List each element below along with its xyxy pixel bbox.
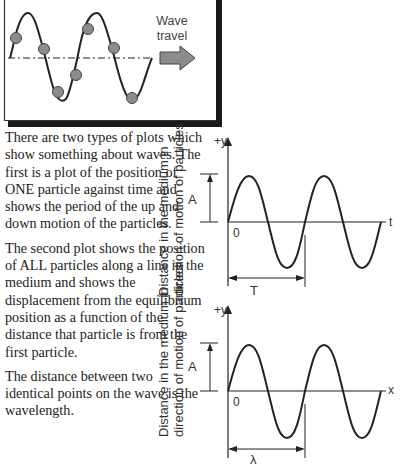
graph-space-y-axis-label-line2: direction of motion of particles bbox=[171, 264, 186, 437]
graph-space-x-tick: x bbox=[388, 383, 394, 397]
graph-time-amplitude-label: A bbox=[188, 192, 197, 207]
graph-space-y-axis-label-line1: Distance in the medium in bbox=[156, 287, 171, 437]
graph-space-amplitude-label: A bbox=[188, 359, 197, 374]
graph-displacement-vs-time: +y t 0 A T bbox=[190, 130, 407, 300]
graph-displacement-vs-distance: +y x 0 A λ bbox=[190, 300, 407, 467]
graph-space-wavelength-label: λ bbox=[250, 452, 257, 467]
wave-travel-figure: Wave travel bbox=[0, 0, 230, 128]
graph-space-origin: 0 bbox=[233, 395, 240, 409]
distance-plot bbox=[190, 300, 407, 467]
wave-travel-label-line1: Wave bbox=[152, 14, 192, 29]
wave-travel-label-line2: travel bbox=[152, 29, 192, 44]
wave-travel-label: Wave travel bbox=[152, 14, 192, 44]
graph-time-y-axis-label-line1: Distance in the medium in bbox=[156, 146, 171, 296]
graph-time-y-tick: +y bbox=[214, 134, 227, 148]
graph-time-x-tick: t bbox=[389, 215, 392, 229]
graph-time-period-label: T bbox=[250, 283, 258, 298]
wave-particles-diagram bbox=[0, 0, 230, 128]
particle-dots bbox=[11, 24, 138, 104]
graph-space-y-tick: +y bbox=[214, 303, 227, 317]
graph-time-origin: 0 bbox=[233, 226, 240, 240]
time-plot bbox=[190, 130, 407, 300]
